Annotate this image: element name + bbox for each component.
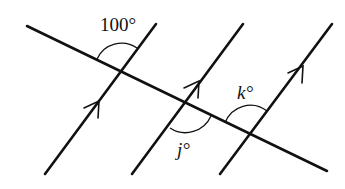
- angle-label-j: j°: [177, 140, 190, 159]
- parallel-line-1: [45, 24, 156, 174]
- diagram-svg: [0, 0, 345, 189]
- diagram-canvas: 100° j° k°: [0, 0, 345, 189]
- angle-arc-j: [170, 116, 211, 133]
- angle-label-k: k°: [237, 83, 253, 102]
- angle-label-100: 100°: [100, 15, 136, 34]
